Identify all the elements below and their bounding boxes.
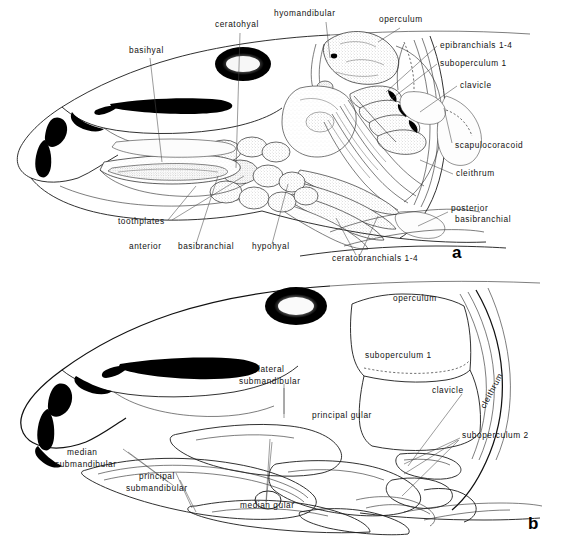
label-epibranchials: epibranchials 1-4 [440,40,513,50]
label-submandibular-lat: submandibular [239,376,301,386]
label-hyomandibular: hyomandibular [274,8,336,18]
label-submandibular-pri: submandibular [126,483,188,493]
label-toothplates: toothplates [118,216,165,226]
label-submandibular-med: submandibular [55,459,117,469]
label-ceratobranchials: ceratobranchials 1-4 [332,253,418,263]
label-suboperculum-1: suboperculum 1 [440,58,507,68]
panel-a: basihyalceratohyalhyomandibularoperculum… [0,0,564,268]
label-median: median [67,447,98,457]
label-scapulocoracoid: scapulocoracoid [455,140,523,150]
label-median-gular: median gular [240,500,295,510]
label-cleithrum: cleithrum [456,168,495,178]
label-ceratohyal: ceratohyal [215,19,259,29]
panel-a-letter: a [452,243,462,262]
label-clavicle: clavicle [460,80,492,90]
panel-b: operculumsuboperculum 1lateralsubmandibu… [0,268,564,537]
label-principal-gular: principal gular [312,410,372,420]
label-basihyal: basihyal [129,45,164,55]
label-clavicle: clavicle [432,385,464,395]
label-lateral: lateral [258,364,284,374]
label-operculum: operculum [393,293,437,303]
label-basibranchial-ant: basibranchial [178,241,234,251]
label-anterior: anterior [129,241,162,251]
label-principal: principal [139,471,175,481]
label-operculum: operculum [379,14,423,24]
anatomical-figure: basihyalceratohyalhyomandibularoperculum… [0,0,564,537]
label-suboperculum-2: suboperculum 2 [462,430,529,440]
label-posterior: posterior [451,203,488,213]
label-cleithrum: cleithrum [478,371,505,410]
label-suboperculum-1: suboperculum 1 [365,350,432,360]
panel-b-letter: b [528,514,538,533]
label-basibranchial-post: basibranchial [455,214,511,224]
label-hypohyal: hypohyal [252,241,290,251]
